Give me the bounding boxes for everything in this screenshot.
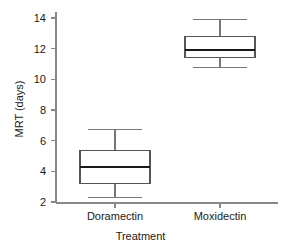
boxplot-chart: MRT (days) Treatment 2468101214 Doramect… (0, 0, 281, 247)
box-moxidectin (185, 36, 255, 57)
plot-area (0, 0, 281, 247)
